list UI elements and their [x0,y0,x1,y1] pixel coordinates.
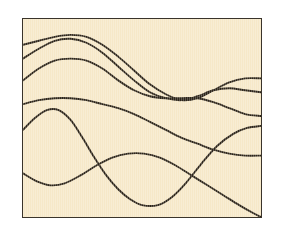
curve-line-2 [23,39,261,101]
curve-group [23,35,261,217]
plot-panel [22,18,262,218]
curve-line-6 [23,153,261,217]
curve-canvas [23,19,261,217]
curve-line-5 [23,109,261,206]
curve-line-1 [23,35,261,101]
figure-root [0,0,283,235]
